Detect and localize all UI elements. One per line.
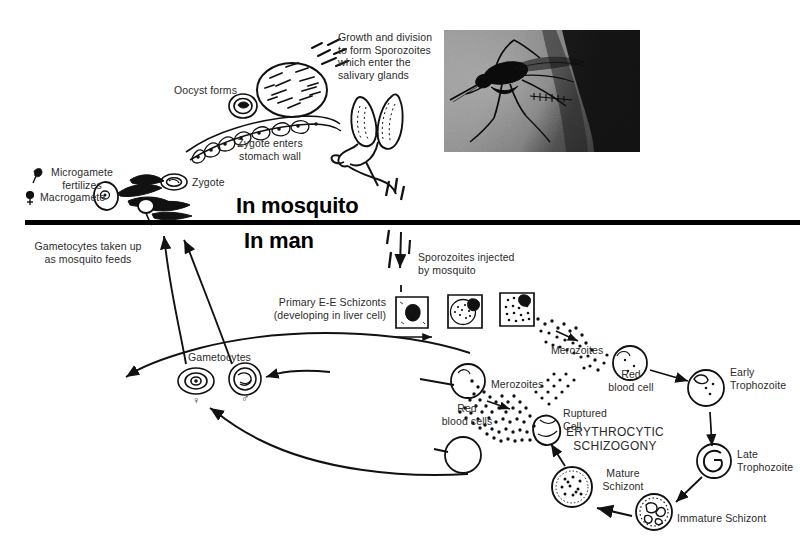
arrow-early-to-late-trophozoite [710, 412, 712, 446]
label-merozoites-lower: Merozoites [491, 378, 543, 391]
label-late-trophozoite: Late Trophozoite [737, 448, 793, 473]
gametocyte-female-symbol: ♀ [192, 394, 200, 406]
arrow-liver-to-gametocytes [126, 333, 470, 377]
liver-cell-schizont-icon [396, 293, 534, 337]
label-sporozoites-injected: Sporozoites injected by mosquito [418, 251, 515, 276]
label-red-blood-cell: Red blood cell [602, 368, 660, 393]
label-macrogamete: Macrogamete [40, 191, 105, 204]
red-blood-cell-left-upper-icon [451, 364, 485, 398]
gametocyte-male-icon [229, 363, 261, 395]
oocyst-mature-icon [257, 39, 348, 117]
mosquito-photo-content [444, 30, 640, 152]
mosquito-man-divider [25, 220, 800, 225]
mosquito-photograph [444, 30, 640, 152]
label-gametocytes-taken-up: Gametocytes taken up as mosquito feeds [32, 240, 144, 265]
merozoite-flow-arrow-upper [556, 331, 578, 341]
label-immature-schizont: Immature Schizont [677, 512, 766, 525]
heading-in-man: In man [244, 228, 314, 254]
ruptured-cell-icon [533, 416, 560, 445]
label-microgamete-fertilizes: Microgamete fertilizes [44, 166, 120, 191]
immature-schizont-icon [636, 494, 672, 530]
arrow-blood-stage-to-gametocytes [210, 408, 468, 475]
mature-schizont-icon [552, 467, 592, 507]
gametocyte-uptake-arrows [164, 236, 232, 364]
arrow-into-rbc-lower [434, 449, 448, 452]
gametocyte-female-icon [178, 368, 214, 394]
malaria-life-cycle-diagram: In mosquito In man Oocyst forms Zygote e… [0, 0, 809, 553]
gametocyte-male-symbol: ♂ [241, 392, 249, 404]
label-zygote: Zygote [192, 176, 225, 189]
label-gametocytes: Gametocytes [188, 351, 251, 364]
microgamete-marker-icon [33, 168, 42, 183]
label-mature-schizont: Mature Schizont [592, 467, 654, 492]
label-oocyst-forms: Oocyst forms [174, 84, 237, 97]
macrogamete-marker-icon [27, 192, 34, 205]
late-trophozoite-icon [697, 444, 731, 478]
arrow-late-trophozoite-to-immature-schizont [676, 477, 702, 502]
label-growth-and-division: Growth and division to form Sporozoites … [338, 31, 432, 81]
sporozoite-arrow-icon [386, 178, 410, 292]
label-zygote-enters-stomach-wall: Zygote enters stomach wall [224, 137, 316, 162]
label-early-trophozoite: Early Trophozoite [730, 366, 786, 391]
salivary-gland-icon [331, 94, 402, 194]
heading-in-mosquito: In mosquito [236, 193, 358, 219]
early-trophozoite-icon [688, 370, 724, 406]
red-blood-cell-left-lower-icon [445, 437, 481, 473]
label-primary-ee-schizonts: Primary E-E Schizonts (developing in liv… [238, 296, 386, 321]
arrow-to-gametocyte-male [266, 371, 330, 377]
arrow-immature-to-mature-schizont [597, 508, 632, 516]
zygote-icon [161, 174, 187, 190]
label-merozoites-upper: Merozoites [551, 344, 603, 357]
label-red-blood-cells: Red blood cells [436, 402, 498, 427]
oocyst-icon [229, 94, 257, 118]
label-erythrocytic-schizogony: ERYTHROCYTIC SCHIZOGONY [560, 425, 670, 453]
arrow-into-rbc-upper [420, 379, 454, 385]
line-art-overlay [0, 0, 809, 553]
